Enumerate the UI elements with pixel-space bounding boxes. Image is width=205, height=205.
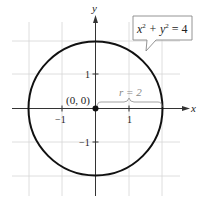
center-point: [93, 106, 99, 112]
x-axis-label: x: [190, 102, 196, 114]
center-label: (0, 0): [66, 94, 90, 107]
y-tick-label-neg1: −1: [79, 137, 90, 148]
circle-graph: x y −1 1 1 −1 (0, 0) r = 2 x2 + y2 = 4: [0, 0, 205, 205]
x-axis-arrow-icon: [182, 106, 190, 111]
radius-label: r = 2: [119, 86, 142, 98]
equation-callout: x2 + y2 = 4: [133, 16, 192, 51]
x-tick-label-1: 1: [127, 114, 132, 125]
y-tick-label-1: 1: [85, 69, 90, 80]
y-axis-arrow-icon: [93, 15, 98, 23]
y-axis-label: y: [91, 2, 97, 14]
x-tick-label-neg1: −1: [55, 114, 66, 125]
